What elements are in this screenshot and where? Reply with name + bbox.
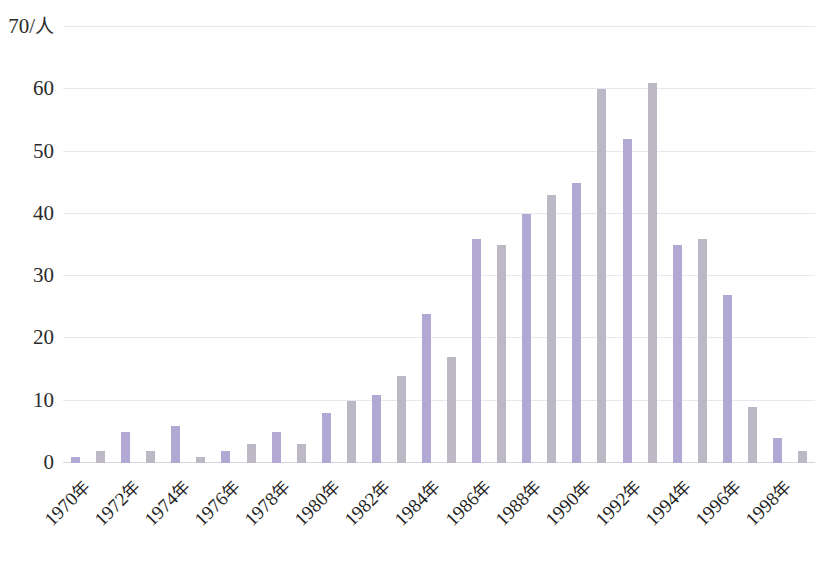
plot-area bbox=[63, 27, 815, 463]
x-axis-tick-label: 1972年 bbox=[88, 474, 145, 531]
bar bbox=[748, 407, 757, 463]
bar bbox=[522, 214, 531, 463]
bar bbox=[347, 401, 356, 463]
bar bbox=[322, 413, 331, 463]
x-axis-tick-label: 1982年 bbox=[338, 474, 395, 531]
bar bbox=[798, 451, 807, 463]
x-axis-tick-label: 1998年 bbox=[740, 474, 797, 531]
bar bbox=[623, 139, 632, 463]
bar bbox=[447, 357, 456, 463]
bar-chart: 010203040506070/人 1970年1972年1974年1976年19… bbox=[0, 0, 817, 565]
bar bbox=[171, 426, 180, 463]
bar bbox=[422, 314, 431, 463]
y-axis-tick-label: 70/人 bbox=[0, 16, 54, 37]
bar bbox=[597, 89, 606, 463]
bar bbox=[297, 444, 306, 463]
bar bbox=[547, 195, 556, 463]
x-axis-tick-label: 1976年 bbox=[188, 474, 245, 531]
x-axis-tick-label: 1984年 bbox=[389, 474, 446, 531]
x-axis-tick-label: 1978年 bbox=[238, 474, 295, 531]
y-axis-tick-label: 20 bbox=[0, 327, 54, 348]
bar bbox=[497, 245, 506, 463]
y-axis-tick-label: 10 bbox=[0, 390, 54, 411]
x-axis-tick-label: 1974年 bbox=[138, 474, 195, 531]
y-axis-tick-label: 40 bbox=[0, 203, 54, 224]
bar bbox=[221, 451, 230, 463]
x-axis-tick-label: 1994年 bbox=[639, 474, 696, 531]
x-axis-tick-label: 1988年 bbox=[489, 474, 546, 531]
x-axis-tick-label: 1996年 bbox=[689, 474, 746, 531]
y-axis-tick-label: 0 bbox=[0, 452, 54, 473]
x-axis-tick-label: 1980年 bbox=[288, 474, 345, 531]
bar bbox=[648, 83, 657, 463]
y-axis-tick-label: 30 bbox=[0, 265, 54, 286]
bar bbox=[698, 239, 707, 463]
y-axis-tick-label: 50 bbox=[0, 141, 54, 162]
bar-series bbox=[63, 27, 815, 463]
bar bbox=[472, 239, 481, 463]
y-axis-tick-label: 60 bbox=[0, 78, 54, 99]
bar bbox=[146, 451, 155, 463]
x-axis-tick-labels: 1970年1972年1974年1976年1978年1980年1982年1984年… bbox=[63, 463, 815, 563]
y-axis-unit: 人 bbox=[35, 15, 54, 37]
bar bbox=[121, 432, 130, 463]
bar bbox=[572, 183, 581, 463]
bar bbox=[723, 295, 732, 463]
bar bbox=[372, 395, 381, 464]
x-axis-tick-label: 1970年 bbox=[38, 474, 95, 531]
bar bbox=[247, 444, 256, 463]
x-axis-tick-label: 1986年 bbox=[439, 474, 496, 531]
x-axis-tick-label: 1992年 bbox=[589, 474, 646, 531]
bar bbox=[673, 245, 682, 463]
x-axis-tick-label: 1990年 bbox=[539, 474, 596, 531]
bar bbox=[96, 451, 105, 463]
bar bbox=[773, 438, 782, 463]
bar bbox=[272, 432, 281, 463]
bar bbox=[397, 376, 406, 463]
